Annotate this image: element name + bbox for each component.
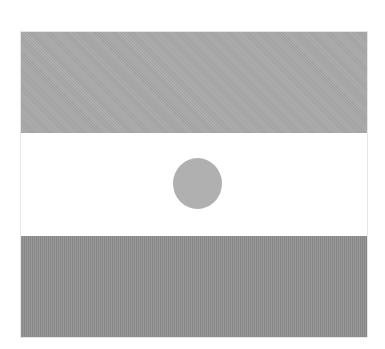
flag-band-top (21, 32, 367, 133)
flag (21, 32, 367, 337)
flag-disc (173, 158, 222, 209)
flag-band-bottom (21, 236, 367, 337)
